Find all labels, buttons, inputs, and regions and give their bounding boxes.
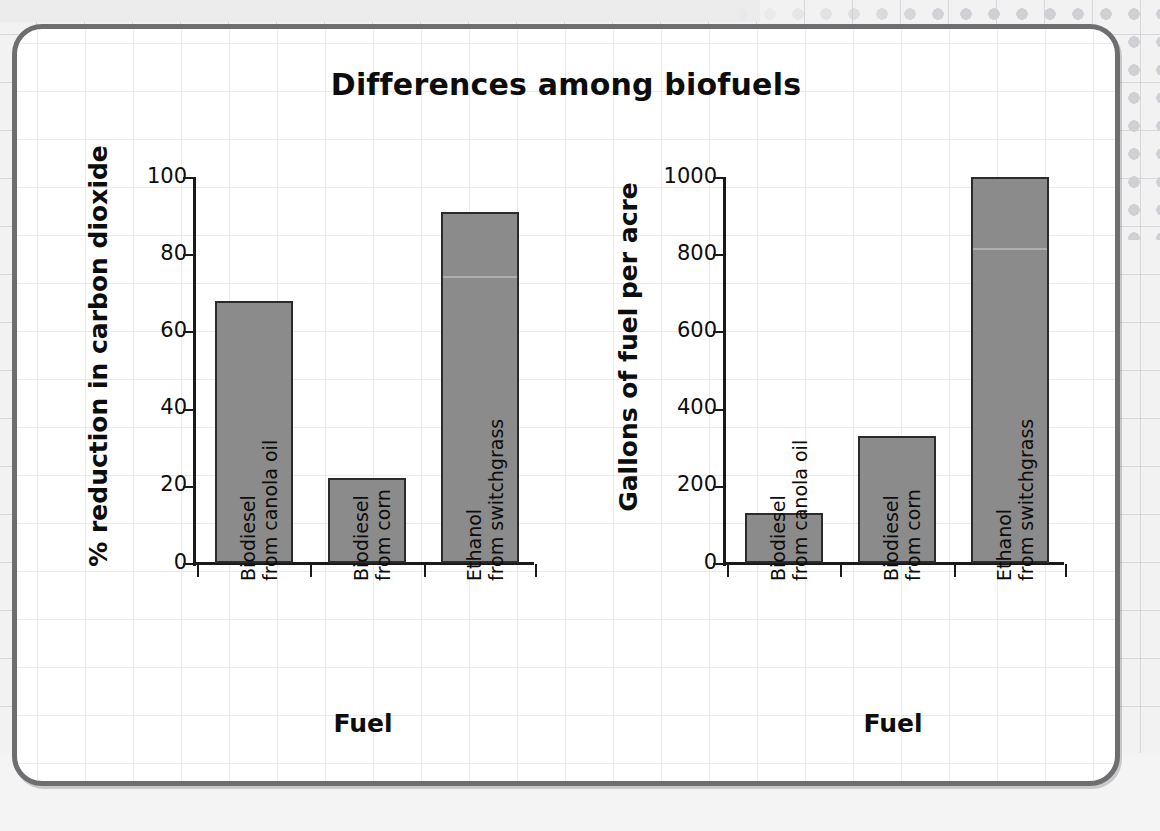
chart-left-y-tick-label: 100 [147,166,193,187]
background-top-strip [0,0,760,22]
chart-left-category-label: Biodieselfrom canola oil [238,391,282,581]
chart-left-x-tick-mark [310,564,312,577]
chart-left-category-label: Ethanolfrom switchgrass [464,391,508,581]
chart-right-x-tick-mark [840,564,842,577]
chart-left-x-tick-mark [197,564,199,577]
chart-right-y-tick-label: 200 [677,474,723,495]
slide-card: Differences among biofuels % reduction i… [12,24,1120,786]
chart-left-y-tick-mark [183,486,194,488]
category-label-line2: from canola oil [260,391,282,581]
chart-left-y-tick-mark [183,177,194,179]
chart-right-y-axis-line [723,177,726,566]
chart-left-y-tick-mark [183,331,194,333]
chart-right-y-tick-mark [713,486,724,488]
category-label-line1: Biodiesel [238,391,260,581]
category-label-line1: Ethanol [464,391,486,581]
chart-right-y-tick-label: 0 [704,552,723,573]
chart-right-x-tick-mark [1065,564,1067,577]
category-label-line2: from corn [373,391,395,581]
chart-left-y-axis-title: % reduction in carbon dioxide [81,147,115,565]
chart-left-y-tick-label: 60 [160,320,193,341]
chart-left-y-tick-mark [183,563,194,565]
chart-left-x-tick-mark [424,564,426,577]
chart-left-plot-area: 020406080100Biodieselfrom canola oilBiod… [193,177,533,565]
chart-right-y-tick-label: 600 [677,320,723,341]
category-label-line2: from canola oil [790,391,812,581]
chart-right-plot-area: 02004006008001000Biodieselfrom canola oi… [723,177,1063,565]
chart-left-y-axis-line [193,177,196,566]
chart-right-y-tick-mark [713,177,724,179]
chart-left-y-tick-label: 0 [174,552,193,573]
chart-left-x-axis-title: Fuel [193,709,533,738]
chart-right-category-label: Ethanolfrom switchgrass [994,391,1038,581]
chart-left-category-label: Biodieselfrom corn [351,391,395,581]
chart-left-y-tick-mark [183,254,194,256]
chart-right-y-tick-label: 1000 [664,166,723,187]
chart-right-y-tick-mark [713,563,724,565]
chart-right-y-tick-mark [713,254,724,256]
category-label-line1: Biodiesel [351,391,373,581]
chart-right-y-tick-label: 400 [677,397,723,418]
chart-right-x-tick-mark [954,564,956,577]
category-label-line1: Biodiesel [768,391,790,581]
category-label-line1: Ethanol [994,391,1016,581]
category-label-line1: Biodiesel [881,391,903,581]
chart-left-y-tick-label: 40 [160,397,193,418]
chart-left-y-tick-label: 80 [160,243,193,264]
chart-left-y-tick-mark [183,409,194,411]
category-label-line2: from switchgrass [1016,391,1038,581]
chart-right-y-tick-mark [713,409,724,411]
page-title: Differences among biofuels [17,67,1115,102]
chart-right-x-axis-title: Fuel [723,709,1063,738]
chart-left-y-tick-label: 20 [160,474,193,495]
chart-right-category-label: Biodieselfrom canola oil [768,391,812,581]
chart-left: % reduction in carbon dioxide 0204060801… [75,147,595,757]
category-label-line2: from corn [903,391,925,581]
chart-right: Gallons of fuel per acre 020040060080010… [605,147,1120,757]
chart-left-x-tick-mark [535,564,537,577]
category-label-line2: from switchgrass [486,391,508,581]
chart-right-y-tick-label: 800 [677,243,723,264]
chart-right-y-tick-mark [713,331,724,333]
chart-right-y-axis-title: Gallons of fuel per acre [611,147,645,547]
chart-right-x-tick-mark [727,564,729,577]
chart-right-category-label: Biodieselfrom corn [881,391,925,581]
